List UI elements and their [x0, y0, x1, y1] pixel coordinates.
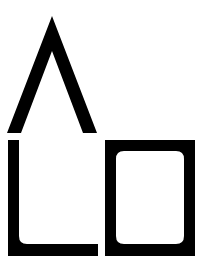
logo-mark	[0, 0, 204, 267]
l-shape-icon	[8, 140, 98, 256]
chevron-roof-icon	[7, 16, 97, 133]
box-outline-icon	[105, 140, 195, 256]
